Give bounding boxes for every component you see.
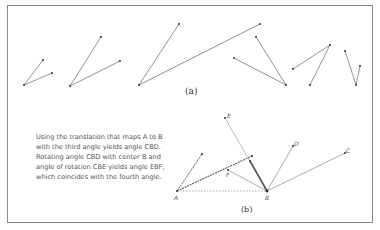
ray-bc	[267, 153, 345, 191]
explanation-line-3: Rotating angle CBD with center B and	[36, 152, 176, 162]
angle-3	[138, 23, 261, 86]
point-label-b: B	[265, 194, 269, 201]
explanation-line-1: Using the translation that maps A to B	[36, 132, 176, 142]
explanation-line-4: angle of rotation CBE yields angle EBF,	[36, 162, 176, 172]
ray-a-upper	[177, 154, 202, 191]
point-label-d: D	[294, 140, 299, 147]
part-b-construction: A B C D E F	[173, 112, 351, 201]
point-label-a: A	[173, 194, 178, 201]
caption-part-a: (a)	[185, 86, 197, 96]
angle-2	[69, 36, 121, 87]
explanation-text: Using the translation that maps A to B w…	[36, 132, 176, 182]
angle-1	[23, 59, 53, 86]
figure-canvas: A B C D E F	[0, 0, 380, 230]
angle-5	[292, 44, 331, 86]
point-label-c: C	[346, 147, 351, 154]
point-label-e: E	[227, 112, 231, 119]
explanation-line-5: which coincides with the fourth angle.	[36, 172, 176, 182]
point-label-f: F	[226, 171, 230, 178]
part-a-angles	[23, 23, 361, 87]
angle-6	[344, 50, 361, 86]
angle-4	[233, 36, 287, 86]
explanation-line-2: with the third angle yields angle CBD.	[36, 142, 176, 152]
caption-part-b: (b)	[241, 205, 252, 214]
